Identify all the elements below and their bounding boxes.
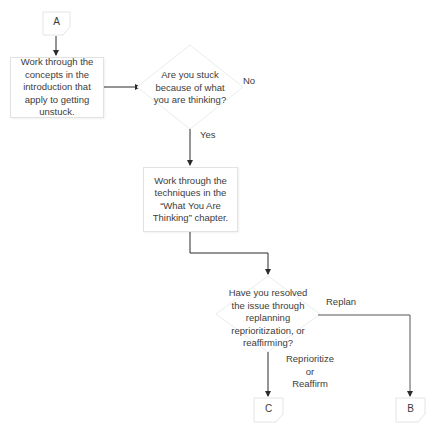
edge-label-reprioritize-line3: Reaffirm xyxy=(282,378,338,391)
step-techniques-box: Work through the techniques in the “What… xyxy=(143,167,238,232)
connector-b: B xyxy=(396,403,425,414)
step-intro-box: Work through the concepts in the introdu… xyxy=(10,57,104,118)
edge-label-reprioritize-line2: or xyxy=(282,366,338,379)
edge-label-no: No xyxy=(243,75,255,88)
decision-resolved-text: Have you resolved the issue through repl… xyxy=(224,287,312,350)
connector-a: A xyxy=(43,16,70,27)
connector-c: C xyxy=(254,403,283,414)
edge-label-replan: Replan xyxy=(326,296,356,309)
edge-label-yes: Yes xyxy=(200,129,216,142)
step-intro-text: Work through the concepts in the introdu… xyxy=(15,56,99,119)
decision-stuck-text: Are you stuck because of what you are th… xyxy=(148,69,232,107)
step-techniques-text: Work through the techniques in the “What… xyxy=(150,175,231,225)
edge-label-reprioritize: Reprioritize or Reaffirm xyxy=(282,353,338,391)
edge-label-reprioritize-line1: Reprioritize xyxy=(282,353,338,366)
